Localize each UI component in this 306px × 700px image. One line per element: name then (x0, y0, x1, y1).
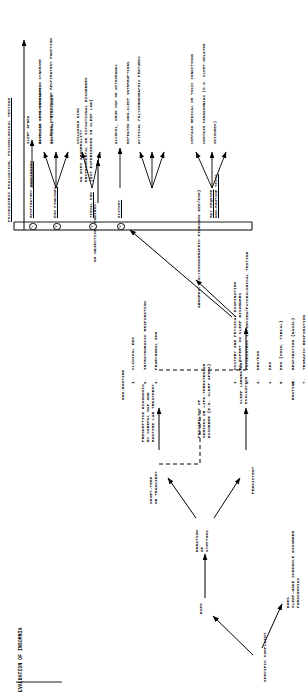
routine-test-number: 7. (301, 378, 306, 384)
result-finding: REPEATED NON-SLEEP INTERRUPTIONS (126, 61, 131, 144)
result-finding: ALCOHOL, DRUG USE OR WITHDRAWAL (114, 64, 119, 144)
result-fans (32, 140, 226, 188)
result-group-marker: 3 (89, 223, 96, 230)
node-specific-complaint: SPECIFIC COMPLAINT (262, 632, 267, 682)
node-does-parasomnias: DOES SLEEP-WAKE SCHEDULE DISORDER PARASO… (285, 531, 301, 608)
routine-test-number: 2. (244, 378, 249, 384)
arrow-duration-short (168, 478, 196, 518)
routine-test-number: 5. (278, 378, 283, 384)
routine-test-label: EKG (267, 362, 272, 370)
result-group-marker: 4 (117, 223, 124, 230)
routine-test-label: RESPIRATION (NASAL) (290, 318, 295, 370)
non-routine-test-number: 2. (142, 378, 147, 384)
routine-test-label: HISTORY AND PHYSICAL EXAMINATION BY EXPE… (232, 282, 242, 370)
result-group-marker: 2 (53, 223, 60, 230)
result-finding: CERTAIN PARASOMNIAS (E.G. SLEEP-RELATED (202, 43, 207, 144)
non-routine-test-number: 1. (130, 378, 135, 384)
arrow-lab-abnormal (196, 280, 236, 317)
routine-test-number: 3. (255, 378, 260, 384)
result-group-marker: 1 (29, 223, 36, 230)
result-finding: SEIZURES) (213, 121, 218, 144)
routine-test-label: THORACIC RESPIRATION (301, 315, 306, 370)
result-group-source: HISTORY (117, 200, 122, 218)
results-box-header: PSYCHIATRIC EVALUATION, PSYCHOLOGICAL TE… (6, 98, 11, 222)
label-abnormal-findings: ABNORMAL POLYSOMNOGRAPHIC FINDINGS EEG/E… (196, 189, 201, 308)
routine-test-number: 4. (267, 378, 272, 384)
dashed-short-to-lab (159, 408, 200, 464)
arrow-duration-persistent (214, 478, 240, 518)
routine-test-number: 6. (290, 378, 295, 384)
non-routine-test-label: CLINICAL EEG (130, 337, 135, 370)
result-group-source: RESPIRATORY MONITORING (29, 161, 34, 218)
routine-test-label: PSYCHIATRIC INTERVIEW/PSYCHOLOGICAL TEST… (244, 251, 249, 370)
result-finding: CERTAIN MEDICAL OR TOXIC CONDITIONS (190, 54, 195, 144)
arrow-complaint-dims (213, 616, 253, 655)
node-duration-of-symptoms: DURATION OF SYMPTOMS (194, 530, 210, 552)
result-finding: SLEEP APNEA (26, 116, 31, 144)
result-group-source: EMG FINDINGS (53, 187, 58, 218)
routine-test-label: EMG (CHIN, TIBIAL) (278, 320, 283, 370)
figure-title: EVALUATION OF INSOMNIA (18, 627, 23, 692)
routine-test-label: EEG/EOG (255, 351, 260, 370)
non-routine-test-number: 3. (153, 378, 158, 384)
result-group-source: MAY REQUIRE NON-ROUTINE TESTS (209, 174, 219, 218)
result-finding: ATYPICAL POLYSOMNOGRAPHIC FEATURES (137, 56, 142, 144)
figure-page: EVALUATION OF INSOMNIA SPECIFIC COMPLAIN… (0, 0, 306, 700)
node-short-term: SHORT-TERM OR TRANSIENT (148, 471, 158, 504)
result-finding: NOCTURNAL MYOCLONUS (50, 95, 55, 144)
node-persistent: PERSISTENT (250, 466, 255, 494)
label-non-routine: NON-ROUTINE (120, 370, 125, 400)
node-presumptive-diagnosis: PRESUMPTIVE DIAGNOSIS BY CAREFUL H&P AND… (140, 384, 156, 442)
non-routine-test-label: INTRATHORACIC RESPIRATION (142, 301, 147, 370)
result-finding: RESTLESS LEGS SYNDROME (38, 87, 43, 144)
results-bracket (14, 222, 252, 230)
routine-test-number: 1. (232, 378, 237, 384)
node-dims: DIMS (198, 603, 203, 614)
non-routine-test-label: PHARYNGEAL EMG (153, 331, 158, 370)
result-group-source: TIBIAL EMG (89, 192, 94, 218)
node-possibility-serious: POSSIBILITY OF SERIOUS OR LIFE-THREATENI… (196, 364, 212, 438)
flowchart-canvas: EVALUATION OF INSOMNIA SPECIFIC COMPLAIN… (0, 0, 306, 700)
result-finding: CHILDHOOD DIMS (76, 108, 81, 144)
